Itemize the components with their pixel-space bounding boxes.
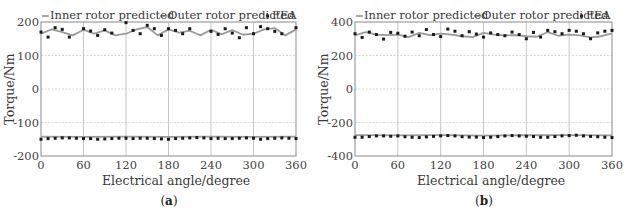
x-tick-label: 180 <box>473 158 495 172</box>
x-axis-label-a: Electrical angle/degree <box>102 173 250 188</box>
panel-caption-a: (a) <box>139 194 199 208</box>
y-tick-label: -200 <box>327 116 353 130</box>
x-tick-label: 300 <box>558 158 580 172</box>
x-tick-label: 120 <box>430 158 452 172</box>
grid <box>41 22 296 156</box>
legend-entry-inner: Inner rotor predicted <box>50 8 175 22</box>
series-line <box>355 135 612 136</box>
y-axis-label: Torque/Nm <box>316 53 331 124</box>
y-tick-label: -200 <box>13 149 39 163</box>
x-tick-label: 360 <box>601 158 623 172</box>
y-axis-label: Torque/Nm <box>2 53 17 124</box>
x-tick-label: 60 <box>391 158 406 172</box>
x-tick-label: 240 <box>515 158 537 172</box>
x-tick-label: 180 <box>158 158 180 172</box>
tick-labels: 060120180240300360-200-1000100200 <box>13 15 307 172</box>
legend-entry-inner: Inner rotor predicted <box>364 8 489 22</box>
y-tick-label: -400 <box>327 149 353 163</box>
legend-entry-fea: FEA <box>586 8 611 22</box>
x-tick-label: 60 <box>76 158 91 172</box>
panel-caption-b: (b) <box>454 194 514 208</box>
x-tick-label: 360 <box>285 158 307 172</box>
chart-panel-b: 060120180240300360-400-2000200400Torque/… <box>313 0 626 217</box>
x-axis-label-b: Electrical angle/degree <box>417 173 565 188</box>
y-tick-label: 200 <box>331 49 353 63</box>
y-tick-label: 400 <box>331 15 353 29</box>
x-tick-label: 240 <box>200 158 222 172</box>
y-tick-label: 0 <box>32 82 39 96</box>
x-tick-label: 300 <box>243 158 265 172</box>
y-tick-label: 200 <box>17 15 39 29</box>
chart-panel-a: 060120180240300360-200-1000100200Torque/… <box>0 0 313 217</box>
tick-labels: 060120180240300360-400-2000200400 <box>327 15 623 172</box>
x-tick-label: 120 <box>115 158 137 172</box>
y-tick-label: 100 <box>17 49 39 63</box>
y-tick-label: -100 <box>13 116 39 130</box>
legend-entry-fea: FEA <box>272 8 297 22</box>
y-tick-label: 0 <box>346 82 353 96</box>
legend: Inner rotor predictedOuter rotor predict… <box>356 8 611 22</box>
legend: Inner rotor predictedOuter rotor predict… <box>42 8 297 22</box>
